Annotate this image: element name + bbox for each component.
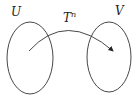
set-u-ellipse xyxy=(7,22,53,94)
set-u-label: U xyxy=(11,6,21,18)
map-arrow xyxy=(29,31,113,52)
map-label: Tn xyxy=(63,11,76,24)
set-v-ellipse xyxy=(87,22,131,92)
map-symbol: T xyxy=(63,11,71,25)
map-exponent: n xyxy=(71,10,76,19)
set-v-label: V xyxy=(115,5,124,17)
diagram: U V Tn xyxy=(0,0,138,99)
